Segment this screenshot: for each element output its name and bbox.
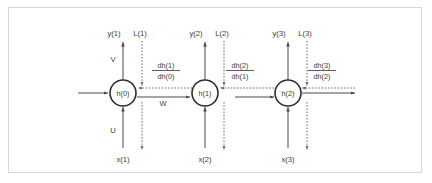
- node-h1-label: h(1): [199, 89, 212, 98]
- weight-label-w: W: [159, 99, 167, 108]
- weight-label-v: V: [110, 55, 116, 64]
- gradient-fraction-3: dh(3) dh(2): [308, 61, 336, 81]
- node-h0[interactable]: h(0): [110, 80, 136, 106]
- output-label-2: y(2): [189, 29, 203, 38]
- input-label-3: x(3): [281, 155, 295, 164]
- gradient-denominator-3: dh(2): [314, 72, 331, 81]
- output-label-3: y(3): [272, 29, 286, 38]
- node-h0-label: h(0): [117, 89, 130, 98]
- input-label-1: x(1): [116, 155, 130, 164]
- gradient-numerator-1: dh(1): [158, 61, 175, 70]
- node-h1[interactable]: h(1): [192, 80, 218, 106]
- loss-label-3: L(3): [298, 29, 312, 38]
- weight-label-u: U: [110, 126, 115, 135]
- gradient-denominator-1: dh(0): [158, 72, 175, 81]
- gradient-numerator-2: dh(2): [232, 61, 249, 70]
- loss-label-2: L(2): [215, 29, 229, 38]
- rnn-bptt-diagram: h(0) h(1) h(2) y(1) y(2) y(3) L(1) L(2) …: [0, 0, 432, 183]
- output-label-1: y(1): [107, 29, 121, 38]
- loss-label-1: L(1): [133, 29, 147, 38]
- gradient-numerator-3: dh(3): [314, 61, 331, 70]
- gradient-fraction-2: dh(2) dh(1): [226, 61, 254, 81]
- gradient-fraction-1: dh(1) dh(0): [152, 61, 180, 81]
- gradient-denominator-2: dh(1): [232, 72, 249, 81]
- node-h2[interactable]: h(2): [275, 80, 301, 106]
- input-label-2: x(2): [198, 155, 212, 164]
- node-h2-label: h(2): [282, 89, 295, 98]
